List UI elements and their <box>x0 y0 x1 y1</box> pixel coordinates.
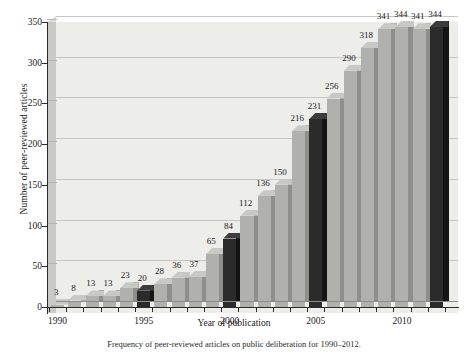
bar-2009: 341 <box>378 29 391 307</box>
x-tick-mark <box>204 307 205 312</box>
y-tick-mark <box>42 266 47 267</box>
bar-front-face <box>327 99 340 307</box>
x-tick-mark <box>411 307 412 312</box>
y-tick-label: 100 <box>28 221 42 231</box>
y-tick-label: 300 <box>28 58 42 68</box>
bar-1997: 36 <box>172 278 185 307</box>
x-tick-mark <box>445 307 446 312</box>
x-tick-mark <box>342 307 343 312</box>
x-tick-mark <box>170 307 171 312</box>
bar-side-face <box>443 21 449 301</box>
x-tick-mark <box>101 307 102 312</box>
x-tick-mark <box>324 307 325 312</box>
gridline-side-edge <box>47 182 57 183</box>
bar-2001: 112 <box>240 216 253 307</box>
bar-value-label: 3 <box>54 287 59 297</box>
gridline-side-edge <box>47 100 57 101</box>
x-tick-mark <box>428 307 429 312</box>
x-tick-mark <box>359 307 360 312</box>
x-tick-mark <box>66 307 67 312</box>
bar-front-face <box>344 71 357 307</box>
figure-bar-chart: Number of peer-reviewed articles 3813132… <box>0 0 468 354</box>
gridline-side-edge <box>47 19 57 20</box>
bar-value-label: 344 <box>428 9 442 19</box>
bar-value-label: 84 <box>224 221 233 231</box>
bar-front-face <box>275 185 288 307</box>
bar-front-face <box>223 239 236 307</box>
bar-2007: 290 <box>344 71 357 307</box>
bar-front-face <box>172 278 185 307</box>
bar-front-face <box>430 27 443 307</box>
plot-left-face <box>47 22 56 313</box>
bar-value-label: 256 <box>325 81 339 91</box>
x-tick-mark <box>238 307 239 312</box>
y-tick-mark <box>42 22 47 23</box>
x-tick-mark <box>376 307 377 312</box>
y-tick-label: 250 <box>28 98 42 108</box>
bar-1999: 65 <box>206 254 219 307</box>
x-axis-back-line <box>56 301 458 302</box>
x-tick-mark <box>152 307 153 312</box>
bar-value-label: 8 <box>71 283 76 293</box>
y-tick-mark <box>42 307 47 308</box>
bar-2008: 318 <box>361 48 374 307</box>
bar-value-label: 216 <box>291 113 305 123</box>
y-tick-label: 50 <box>33 261 43 271</box>
bar-1998: 37 <box>189 277 202 307</box>
y-tick-label: 0 <box>37 302 42 312</box>
bar-value-label: 65 <box>207 236 216 246</box>
bar-2003: 150 <box>275 185 288 307</box>
bar-value-label: 136 <box>256 178 270 188</box>
x-tick-mark <box>290 307 291 312</box>
bar-front-face <box>120 288 133 307</box>
x-axis-line <box>47 307 459 308</box>
y-tick-label: 350 <box>28 17 42 27</box>
bar-value-label: 23 <box>121 270 130 280</box>
x-tick-mark <box>393 307 394 312</box>
bar-front-face <box>137 291 150 307</box>
plot-area: 3813132320283637658411213615021623125629… <box>47 16 458 298</box>
bar-value-label: 341 <box>377 11 391 21</box>
y-tick-label: 150 <box>28 180 42 190</box>
bar-2000: 84 <box>223 239 236 307</box>
bar-2006: 256 <box>327 99 340 307</box>
y-tick-mark <box>42 144 47 145</box>
bar-2002: 136 <box>258 196 271 307</box>
x-tick-mark <box>187 307 188 312</box>
bar-value-label: 20 <box>138 273 147 283</box>
bar-front-face <box>361 48 374 307</box>
bar-2012: 344 <box>430 27 443 307</box>
bar-value-label: 231 <box>308 101 322 111</box>
bar-front-face <box>189 277 202 307</box>
x-tick-mark <box>221 307 222 312</box>
bar-value-label: 341 <box>411 11 425 21</box>
bar-value-label: 36 <box>172 260 181 270</box>
x-tick-mark <box>135 307 136 312</box>
y-tick-mark <box>42 63 47 64</box>
bar-value-label: 150 <box>273 167 287 177</box>
bar-front-face <box>240 216 253 307</box>
figure-caption: Frequency of peer-reviewed articles on p… <box>34 339 434 350</box>
bar-front-face <box>258 196 271 307</box>
bar-1995: 20 <box>137 291 150 307</box>
x-tick-mark <box>256 307 257 312</box>
bar-front-face <box>292 131 305 307</box>
x-tick-mark <box>83 307 84 312</box>
gridline-side-edge <box>47 223 57 224</box>
x-tick-mark <box>49 307 50 312</box>
bar-value-label: 37 <box>190 259 199 269</box>
gridline-side-edge <box>47 141 57 142</box>
x-tick-mark <box>118 307 119 312</box>
bar-value-label: 318 <box>359 30 373 40</box>
bar-value-label: 344 <box>394 9 408 19</box>
bar-value-label: 13 <box>86 278 95 288</box>
bar-value-label: 112 <box>239 198 252 208</box>
bar-front-face <box>413 29 426 307</box>
y-tick-mark <box>42 103 47 104</box>
bar-value-label: 13 <box>103 278 112 288</box>
bar-1996: 28 <box>154 284 167 307</box>
gridline-side-edge <box>47 263 57 264</box>
y-tick-label: 200 <box>28 139 42 149</box>
y-axis-line <box>47 22 48 314</box>
bar-1994: 23 <box>120 288 133 307</box>
